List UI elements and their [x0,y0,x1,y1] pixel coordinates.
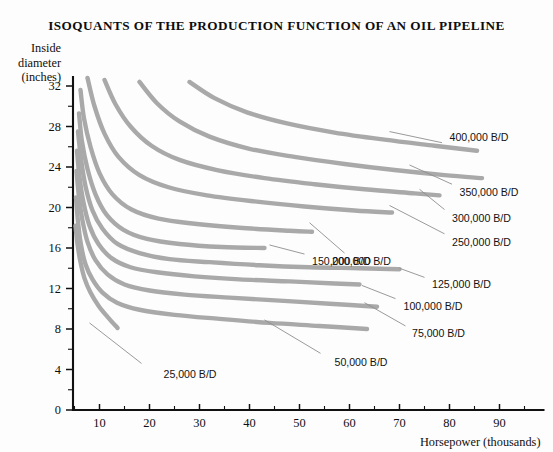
isoquant-curve [190,82,478,151]
isoquant-curves [76,78,483,329]
x-axis-title: Horsepower (thousands) [420,435,541,449]
x-tick-label: 20 [143,416,155,430]
curve-label: 200,000 B/D [332,255,391,267]
y-tick-label: 12 [49,282,61,296]
x-tick-label: 70 [393,416,405,430]
isoquant-curve [105,80,440,195]
y-tick-label: 20 [49,201,61,215]
x-tick-labels: 102030405060708090 [93,416,505,430]
isoquant-curve [77,171,378,307]
leader-line [362,285,396,298]
x-tick-label: 90 [493,416,505,430]
y-axis-title-line: Inside [31,41,62,55]
curve-label: 250,000 B/D [452,236,511,248]
y-tick-label: 4 [55,363,61,377]
leader-line [390,205,445,233]
leader-line [420,189,445,209]
x-tick-label: 80 [443,416,455,430]
curve-label: 75,000 B/D [412,327,465,339]
curve-label: 400,000 B/D [450,131,509,143]
y-tick-label: 24 [49,160,61,174]
isoquant-plot: 048121620242832 102030405060708090 25,00… [0,0,553,452]
y-tick-label: 28 [49,120,61,134]
y-tick-label: 16 [49,241,61,255]
label-leader-lines [90,132,453,364]
leader-line [400,268,425,277]
x-tick-label: 30 [193,416,205,430]
y-axis-title-line: diameter [18,56,61,70]
curve-label: 25,000 B/D [164,368,217,380]
curve-label: 300,000 B/D [452,212,511,224]
curve-label: 350,000 B/D [460,186,519,198]
x-tick-label: 50 [293,416,305,430]
y-tick-labels: 048121620242832 [49,79,61,417]
curve-label: 125,000 B/D [432,278,491,290]
curve-label: 50,000 B/D [335,356,388,368]
leader-line [270,245,305,254]
x-tick-label: 60 [343,416,355,430]
y-axis-title-line: (inches) [21,70,61,84]
curve-label: 100,000 B/D [404,300,463,312]
leader-line [310,223,345,253]
leader-line [365,303,406,326]
x-tick-label: 40 [243,416,255,430]
y-tick-label: 8 [55,322,61,336]
x-tick-label: 10 [93,416,105,430]
y-tick-label: 0 [55,403,61,417]
isoquant-curve [81,90,313,232]
chart-page: ISOQUANTS OF THE PRODUCTION FUNCTION OF … [0,0,553,452]
